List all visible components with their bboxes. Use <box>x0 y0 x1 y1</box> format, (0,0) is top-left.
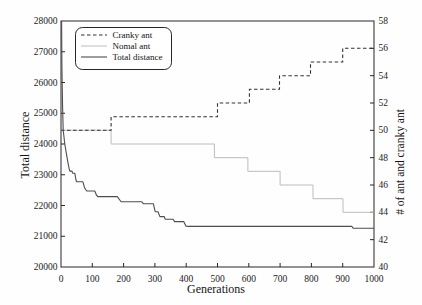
y-right-tick-label: 40 <box>379 262 389 272</box>
x-axis-label: Generations <box>187 282 245 296</box>
y-axis-right: 40424446485052545658 <box>370 16 388 272</box>
y-right-tick-label: 50 <box>379 125 389 135</box>
y-left-tick-label: 21000 <box>34 231 58 241</box>
y-right-tick-label: 42 <box>379 235 389 245</box>
x-tick-label: 100 <box>85 274 100 284</box>
y-left-tick-label: 23000 <box>34 170 58 180</box>
y-right-tick-label: 52 <box>379 98 389 108</box>
y-left-tick-label: 25000 <box>34 108 58 118</box>
x-tick-label: 900 <box>336 274 351 284</box>
x-tick-label: 0 <box>59 274 64 284</box>
chart-canvas: 0100200300400500600700800900100020000210… <box>0 0 422 305</box>
x-tick-label: 800 <box>304 274 319 284</box>
y-left-tick-label: 20000 <box>34 262 58 272</box>
x-tick-label: 200 <box>116 274 131 284</box>
ant-evolution-chart: 0100200300400500600700800900100020000210… <box>0 0 422 305</box>
y-right-tick-label: 54 <box>379 71 389 81</box>
legend-label: Nomal ant <box>113 41 151 51</box>
legend-label: Total distance <box>113 52 163 62</box>
y-left-axis-label: Total distance <box>18 112 32 179</box>
y-left-tick-label: 24000 <box>34 139 58 149</box>
x-tick-label: 700 <box>273 274 288 284</box>
x-axis: 01002003004005006007008009001000 <box>59 263 384 284</box>
y-right-tick-label: 58 <box>379 16 389 26</box>
y-right-tick-label: 48 <box>379 153 389 163</box>
y-left-tick-label: 22000 <box>34 201 58 211</box>
y-right-tick-label: 44 <box>379 207 389 217</box>
y-left-tick-label: 26000 <box>34 78 58 88</box>
y-axis-left: 2000021000220002300024000250002600027000… <box>34 16 65 272</box>
x-tick-label: 300 <box>148 274 163 284</box>
y-right-tick-label: 46 <box>379 180 389 190</box>
y-left-tick-label: 27000 <box>34 47 58 57</box>
y-left-tick-label: 28000 <box>34 16 58 26</box>
scanned-figure-page: 0100200300400500600700800900100020000210… <box>0 0 422 305</box>
x-tick-label: 1000 <box>365 274 384 284</box>
legend-label: Cranky ant <box>113 30 153 40</box>
y-right-tick-label: 56 <box>379 43 389 53</box>
legend: Cranky antNomal antTotal distance <box>76 28 172 70</box>
y-right-axis-label: # of ant and cranky ant <box>394 108 407 215</box>
series-nomal-ant <box>61 130 374 212</box>
